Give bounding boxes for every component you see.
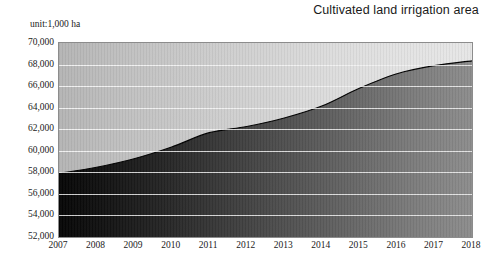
y-axis-tick-label: 64,000 (8, 102, 54, 112)
y-axis-tick-label: 70,000 (8, 37, 54, 47)
x-axis-tick (322, 237, 323, 238)
x-axis-tick (209, 237, 210, 238)
area-series (59, 43, 472, 237)
x-axis-tick (134, 237, 135, 238)
x-axis-tick (359, 237, 360, 238)
x-axis-tick-label: 2018 (451, 240, 491, 251)
y-axis-tick-label: 62,000 (8, 123, 54, 133)
y-axis-tick-label: 68,000 (8, 59, 54, 69)
x-axis-tick-label: 2007 (38, 240, 78, 251)
x-axis-tick-label: 2014 (301, 240, 341, 251)
x-axis-tick-label: 2011 (188, 240, 228, 251)
chart-title: Cultivated land irrigation area (296, 3, 496, 17)
x-axis-tick-label: 2008 (76, 240, 116, 251)
x-axis-tick-label: 2009 (113, 240, 153, 251)
x-axis-tick (247, 237, 248, 238)
chart-screenshot: Cultivated land irrigation area unit:1,0… (0, 0, 504, 260)
y-axis-tick-label: 60,000 (8, 145, 54, 155)
x-axis-tick-label: 2016 (376, 240, 416, 251)
x-axis-tick-label: 2012 (226, 240, 266, 251)
x-axis-tick (59, 237, 60, 238)
x-axis-tick (97, 237, 98, 238)
x-axis-tick (397, 237, 398, 238)
x-axis-tick-label: 2013 (263, 240, 303, 251)
x-axis-tick (472, 237, 473, 238)
x-axis-tick-label: 2010 (151, 240, 191, 251)
y-axis-tick-label: 66,000 (8, 80, 54, 90)
x-axis-tick (284, 237, 285, 238)
y-axis-labels: 70,00068,00066,00064,00062,00060,00058,0… (6, 42, 54, 236)
x-axis-tick-label: 2015 (338, 240, 378, 251)
y-axis-tick (58, 237, 59, 238)
y-axis-tick-label: 56,000 (8, 188, 54, 198)
unit-label: unit:1,000 ha (30, 19, 80, 29)
x-axis-tick-label: 2017 (413, 240, 453, 251)
x-axis-tick (172, 237, 173, 238)
x-axis-tick (434, 237, 435, 238)
y-axis-tick-label: 54,000 (8, 209, 54, 219)
plot-area (58, 42, 473, 238)
y-axis-tick-label: 58,000 (8, 166, 54, 176)
x-axis-labels: 2007200820092010201120122013201420152016… (58, 240, 471, 254)
